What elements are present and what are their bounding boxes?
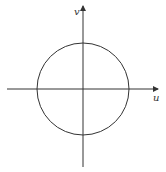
diagram-canvas: v u [0, 0, 166, 172]
v-axis-label: v [74, 6, 80, 17]
u-axis-label: u [153, 92, 159, 103]
